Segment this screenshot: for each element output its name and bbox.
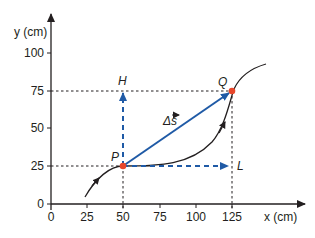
displacement-diagram: 100 75 50 25 0 0 25 50 75 100 125 y (cm)… <box>0 0 315 238</box>
x-tick-125: 125 <box>222 210 242 224</box>
y-tick-25: 25 <box>31 159 45 173</box>
x-tick-75: 75 <box>153 210 167 224</box>
y-tick-100: 100 <box>24 46 44 60</box>
y-tick-0: 0 <box>37 197 44 211</box>
point-p-label: P <box>111 150 119 164</box>
point-q-label: Q <box>218 75 227 89</box>
y-axis-label: y (cm) <box>14 25 47 39</box>
curve-direction-arrow-1 <box>92 178 99 186</box>
axis-ticks <box>47 53 232 208</box>
vector-l-label: L <box>237 159 244 173</box>
x-tick-0: 0 <box>48 210 55 224</box>
displacement-vector <box>123 93 229 166</box>
vector-h-label: H <box>118 74 127 88</box>
curve-direction-arrow-2 <box>219 122 225 133</box>
point-p-marker <box>120 163 127 170</box>
y-tick-75: 75 <box>31 84 45 98</box>
x-tick-50: 50 <box>116 210 130 224</box>
x-tick-25: 25 <box>80 210 94 224</box>
y-tick-50: 50 <box>31 121 45 135</box>
x-axis-label: x (cm) <box>264 210 297 224</box>
displacement-label: Δs <box>162 114 177 128</box>
point-q-marker <box>229 88 236 95</box>
x-tick-100: 100 <box>186 210 206 224</box>
